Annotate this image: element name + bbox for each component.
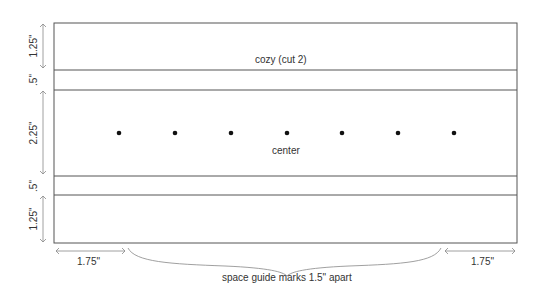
left-dimension-arrows (40, 24, 46, 242)
dim-label-1: 1.25" (28, 34, 39, 57)
dim-label-4: .5" (28, 180, 39, 192)
guide-marks (117, 131, 457, 136)
dim-label-5: 1.25" (28, 207, 39, 230)
right-margin-label: 1.75" (471, 256, 494, 267)
dim-label-3: 2.25" (28, 121, 39, 144)
top-label: cozy (cut 2) (255, 54, 307, 65)
bottom-label: space guide marks 1.5" apart (222, 272, 352, 283)
dim-label-2: .5" (28, 74, 39, 86)
center-label: center (272, 145, 300, 156)
left-margin-label: 1.75" (77, 256, 100, 267)
